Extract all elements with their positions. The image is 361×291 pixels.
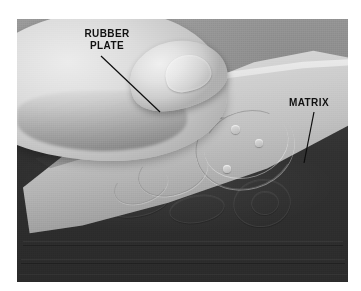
emboss-dot (223, 165, 231, 173)
callout-label-rubber-plate-line2: PLATE (90, 40, 124, 51)
callout-label-rubber-plate-line1: RUBBER (84, 28, 129, 39)
photograph (17, 19, 348, 282)
matrix-engraved-line (19, 274, 347, 275)
callout-label-rubber-plate: RUBBERPLATE (78, 28, 136, 51)
matrix-engraved-line (23, 241, 343, 242)
matrix-engraved-line (21, 263, 345, 264)
matrix-engraved-line (21, 259, 345, 260)
callout-label-matrix-line1: MATRIX (289, 97, 329, 108)
callout-label-matrix: MATRIX (289, 97, 343, 109)
figure-root: RUBBERPLATE MATRIX (0, 0, 361, 291)
matrix-engraved-line (23, 245, 343, 246)
emboss-dot (231, 125, 240, 134)
emboss-dot (255, 139, 263, 147)
